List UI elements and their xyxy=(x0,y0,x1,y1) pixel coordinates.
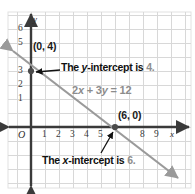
y-tick-3: 3 xyxy=(18,66,23,76)
x-intercept-coordinate-label: (6, 0) xyxy=(118,110,141,121)
equation-equals-sign: = xyxy=(108,84,120,96)
y-tick-6: 6 xyxy=(18,24,23,34)
y-tick-2: 2 xyxy=(18,80,23,90)
equation-constant: 12 xyxy=(120,84,132,96)
x-tick-9: 9 xyxy=(154,130,159,140)
y-intercept-note-middle: -intercept is xyxy=(87,61,146,73)
y-tick-5: 5 xyxy=(18,38,23,48)
x-intercept-note-prefix: The xyxy=(42,154,63,166)
y-intercept-note: The y-intercept is 4. xyxy=(61,62,154,73)
equation-label: 2x + 3y = 12 xyxy=(72,85,131,96)
y-axis-label: y xyxy=(33,15,37,24)
origin-label: O xyxy=(18,130,25,140)
x-axis-label: x xyxy=(170,130,174,139)
x-intercept-note-value: 6. xyxy=(127,154,135,166)
x-tick-2: 2 xyxy=(56,130,61,140)
y-tick-1: 1 xyxy=(18,94,23,104)
x-tick-5: 5 xyxy=(98,130,103,140)
x-intercept-note: The x-intercept is 6. xyxy=(42,155,135,166)
y-intercept-note-value: 4. xyxy=(146,61,154,73)
x-tick-3: 3 xyxy=(70,130,75,140)
y-intercept-point xyxy=(28,68,34,74)
x-intercept-point xyxy=(112,124,118,130)
x-tick-4: 4 xyxy=(84,130,89,140)
y-intercept-note-prefix: The xyxy=(61,61,82,73)
y-intercept-coordinate-label: (0, 4) xyxy=(33,41,56,52)
x-intercept-note-middle: -intercept is xyxy=(68,154,127,166)
equation-plus-sign: + xyxy=(84,84,96,96)
graph-figure: 6 5 3 2 1 O 1 2 3 4 5 8 9 x y (0, 4) (6,… xyxy=(0,0,195,194)
x-tick-1: 1 xyxy=(42,130,47,140)
x-tick-8: 8 xyxy=(140,130,145,140)
